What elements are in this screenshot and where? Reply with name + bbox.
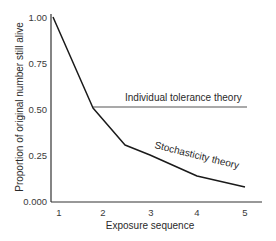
x-axis-title: Exposure sequence [106,220,195,231]
survival-chart: 1.00 0.75 0.50 0.25 0.000 1 2 3 4 5 Expo… [0,0,276,241]
y-tick-label: 0.000 [23,196,47,207]
x-tick-label: 2 [100,207,105,218]
x-tick-label: 1 [56,207,61,218]
x-tick-label: 5 [242,207,247,218]
x-tick-label: 4 [194,207,199,218]
y-tick-label: 0.50 [29,104,48,115]
y-tick-label: 0.25 [29,150,48,161]
y-tick-labels: 1.00 0.75 0.50 0.25 0.000 [23,12,47,207]
y-axis-title: Proportion of original number still aliv… [14,22,25,192]
annotation-individual-tolerance: Individual tolerance theory [125,92,242,103]
y-tick-label: 1.00 [29,12,48,23]
y-tick-label: 0.75 [29,58,48,69]
annotation-stochasticity: Stochasticity theory [154,139,241,171]
x-tick-labels: 1 2 3 4 5 [56,207,247,218]
x-tick-label: 3 [148,207,153,218]
